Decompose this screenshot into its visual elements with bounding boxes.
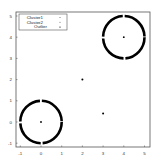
cluster-center-point <box>40 121 42 123</box>
y-tick-label: 0 <box>10 120 13 125</box>
scatter-chart: -1012345 -1012345 Cluster1 Cluster2 Outl… <box>0 0 159 163</box>
x-tick-label: -1 <box>18 151 22 156</box>
y-tick-label: 4 <box>10 35 13 40</box>
y-tick-label: 1 <box>10 98 13 103</box>
x-tick-label: 5 <box>143 151 146 156</box>
outlier-point <box>102 113 104 115</box>
legend-marker-cluster2 <box>60 22 61 23</box>
y-tick-label: -1 <box>8 141 12 146</box>
y-tick-label: 2 <box>10 77 13 82</box>
legend-marker-cluster1 <box>60 17 61 18</box>
x-tick-label: 2 <box>81 151 84 156</box>
x-tick-label: 1 <box>60 151 63 156</box>
legend-marker-outlier <box>59 26 60 27</box>
legend-label-outlier: Outlier <box>34 24 47 29</box>
x-tick-label: 3 <box>102 151 105 156</box>
outlier-point <box>81 79 83 81</box>
x-tick-label: 0 <box>40 151 43 156</box>
y-tick-label: 3 <box>10 56 13 61</box>
legend: Cluster1 Cluster2 Outlier <box>19 14 67 30</box>
y-tick-label: 5 <box>10 14 13 19</box>
x-tick-label: 4 <box>123 151 126 156</box>
cluster-center-point <box>123 36 125 38</box>
